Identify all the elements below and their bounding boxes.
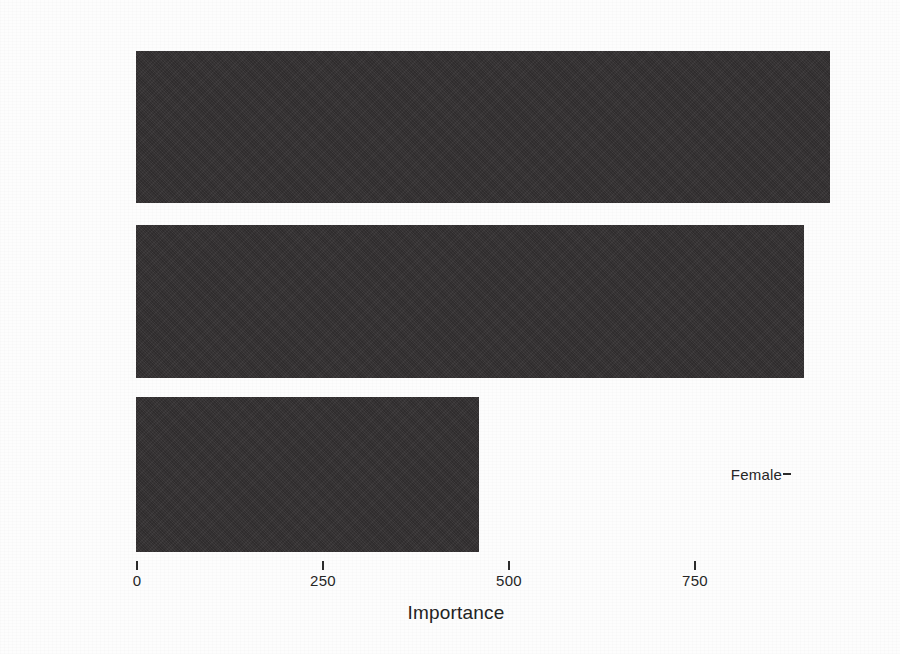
x-tick-mark-250	[322, 561, 324, 570]
x-tick-mark-0	[136, 561, 138, 570]
x-tick-label-500: 500	[496, 572, 522, 589]
x-tick-label-250: 250	[310, 572, 336, 589]
x-axis-title: Importance	[0, 602, 900, 624]
bar-tenure	[136, 225, 804, 378]
bar-female	[136, 397, 479, 552]
bar-educ	[136, 51, 830, 203]
x-tick-mark-500	[508, 561, 510, 570]
x-tick-label-0: 0	[133, 572, 142, 589]
x-tick-mark-750	[694, 561, 696, 570]
plot-panel	[136, 40, 866, 555]
x-axis-title-text: Importance	[407, 602, 504, 623]
x-tick-label-750: 750	[682, 572, 708, 589]
variable-importance-bar-chart: Educ Tenure Female 0 250 500 750 Importa…	[0, 0, 900, 654]
